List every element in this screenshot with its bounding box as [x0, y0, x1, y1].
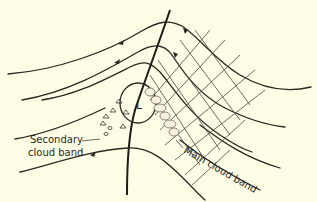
secondary-label-line2: cloud band — [28, 147, 83, 158]
secondary-label-line1: Secondary — [30, 134, 83, 145]
cloud-band-diagram: L Secondary cloud band Main cloud band — [0, 0, 317, 202]
main-cloud-band-label: Main cloud band — [182, 144, 259, 195]
secondary-pointer — [82, 139, 100, 141]
trough-line — [127, 10, 170, 195]
low-label: L — [136, 99, 143, 112]
